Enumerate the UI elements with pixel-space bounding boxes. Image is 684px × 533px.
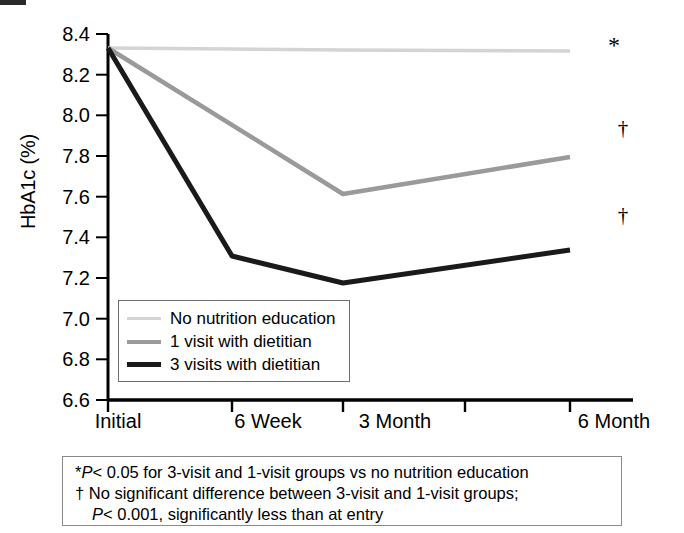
y-axis-tick-labels: 8.4 8.2 8.0 7.8 7.6 7.4 7.2 7.0 6.8 6.6 bbox=[18, 0, 90, 460]
legend-item-label: 1 visit with dietitian bbox=[170, 333, 312, 351]
footnote-box: *P< 0.05 for 3-visit and 1-visit groups … bbox=[62, 456, 622, 526]
footnote-p-italic: P bbox=[81, 463, 92, 481]
figure-hba1c-line-chart: HbA1c (%) 8.4 8.2 8.0 7.8 7.6 7.4 7.2 7.… bbox=[0, 0, 684, 533]
significance-marker-dagger-1visit: † bbox=[618, 118, 629, 139]
x-axis-tick-labels: Initial 6 Week 3 Month 6 Month bbox=[0, 410, 684, 444]
footnote-line-3-text: < 0.001, significantly less than at entr… bbox=[103, 505, 383, 523]
legend-item-3-visits-dietitian: 3 visits with dietitian bbox=[127, 353, 341, 376]
y-tick-label: 6.6 bbox=[38, 390, 90, 410]
series-line-1-visit-dietitian bbox=[108, 48, 570, 194]
significance-marker-asterisk: * bbox=[608, 35, 620, 56]
y-tick-label: 6.8 bbox=[38, 349, 90, 369]
y-tick-label: 7.8 bbox=[38, 146, 90, 166]
footnote-line-1: *P< 0.05 for 3-visit and 1-visit groups … bbox=[75, 462, 611, 483]
x-tick-label: Initial bbox=[95, 410, 142, 432]
footnote-line-2: † No significant difference between 3-vi… bbox=[75, 483, 611, 504]
legend-item-no-nutrition-education: No nutrition education bbox=[127, 307, 341, 330]
significance-marker-dagger-3visit: † bbox=[618, 205, 629, 226]
footnote-line-3: P< 0.001, significantly less than at ent… bbox=[75, 504, 611, 525]
plot-area bbox=[0, 0, 684, 460]
legend-item-label: No nutrition education bbox=[170, 310, 335, 328]
footnote-line-1-text: < 0.05 for 3-visit and 1-visit groups vs… bbox=[92, 463, 528, 481]
x-tick-label: 6 Month bbox=[578, 410, 650, 432]
x-tick-label: 6 Week bbox=[234, 410, 301, 432]
chart-legend: No nutrition education 1 visit with diet… bbox=[118, 300, 350, 382]
legend-swatch-icon bbox=[127, 340, 161, 344]
series-line-no-nutrition-education bbox=[108, 48, 570, 51]
y-axis-ticks bbox=[96, 34, 108, 400]
legend-item-1-visit-dietitian: 1 visit with dietitian bbox=[127, 330, 341, 353]
legend-swatch-icon bbox=[127, 362, 161, 367]
y-tick-label: 7.4 bbox=[38, 227, 90, 247]
y-tick-label: 7.2 bbox=[38, 268, 90, 288]
y-tick-label: 7.6 bbox=[38, 187, 90, 207]
legend-swatch-icon bbox=[127, 317, 161, 320]
series-line-3-visits-dietitian bbox=[108, 48, 570, 283]
y-tick-label: 8.4 bbox=[38, 24, 90, 44]
y-tick-label: 7.0 bbox=[38, 309, 90, 329]
footnote-p-italic: P bbox=[92, 505, 103, 523]
legend-item-label: 3 visits with dietitian bbox=[170, 356, 320, 374]
y-tick-label: 8.0 bbox=[38, 105, 90, 125]
x-tick-label: 3 Month bbox=[359, 410, 431, 432]
y-tick-label: 8.2 bbox=[38, 65, 90, 85]
